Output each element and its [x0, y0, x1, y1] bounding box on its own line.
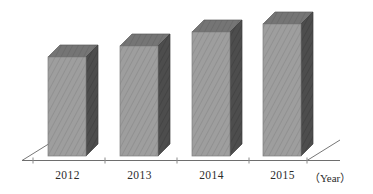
x-tick-label-2012: 2012: [45, 169, 90, 181]
bar-2014-side-face: [230, 20, 242, 156]
bar-2013-front-face: [120, 46, 158, 156]
bar-2012-front-face: [48, 57, 86, 156]
x-tick-label-2014: 2014: [189, 169, 234, 181]
bar-2013[interactable]: [120, 34, 170, 156]
chart-canvas: [0, 0, 373, 194]
bar-2012-side-face: [86, 45, 98, 156]
bar-2014-front-face: [192, 32, 230, 156]
bar-2014[interactable]: [192, 20, 242, 156]
x-axis-title: （Year）: [309, 169, 351, 185]
bar-2012[interactable]: [48, 45, 98, 156]
bar-chart-figure: 2012 2013 2014 2015 （Year）: [0, 0, 373, 194]
bar-2015-front-face: [263, 24, 301, 156]
x-tick-label-2013: 2013: [117, 169, 162, 181]
x-tick-label-2015: 2015: [260, 169, 305, 181]
bar-2015[interactable]: [263, 12, 313, 156]
bar-2013-side-face: [158, 34, 170, 156]
bar-2015-side-face: [301, 12, 313, 156]
